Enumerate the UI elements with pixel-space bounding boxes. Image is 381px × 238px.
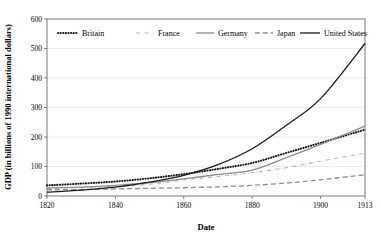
x-tick-label: 1900 bbox=[313, 201, 328, 210]
legend-label-britain: Britain bbox=[82, 29, 104, 38]
series-line-germany bbox=[47, 126, 365, 188]
series-lines bbox=[47, 43, 365, 192]
y-axis-title: GDP (in billions of 1990 international d… bbox=[3, 24, 13, 190]
x-tick-label: 1860 bbox=[176, 201, 191, 210]
series-line-britain bbox=[47, 130, 365, 186]
chart-legend: BritainFranceGermanyJapanUnited States bbox=[58, 29, 367, 38]
x-tickmarks bbox=[47, 196, 365, 199]
gdp-line-chart: 0100200300400500600 18201840186018801900… bbox=[0, 0, 381, 238]
x-tick-label: 1880 bbox=[245, 201, 260, 210]
y-tickmarks bbox=[44, 19, 47, 196]
y-tick-labels: 0100200300400500600 bbox=[31, 15, 43, 201]
gridlines bbox=[47, 49, 365, 167]
x-axis-title: Date bbox=[198, 222, 215, 232]
y-tick-label: 0 bbox=[38, 192, 42, 201]
x-tick-label: 1840 bbox=[108, 201, 123, 210]
y-tick-label: 500 bbox=[31, 44, 43, 53]
x-tick-label: 1820 bbox=[40, 201, 55, 210]
y-tick-label: 600 bbox=[31, 15, 43, 24]
legend-label-france: France bbox=[158, 29, 180, 38]
legend-label-japan: Japan bbox=[277, 29, 295, 38]
legend-label-germany: Germany bbox=[218, 29, 248, 38]
y-tick-label: 300 bbox=[31, 103, 43, 112]
x-tick-labels: 182018401860188019001913 bbox=[40, 201, 373, 210]
y-tick-label: 200 bbox=[31, 133, 43, 142]
series-line-united-states bbox=[47, 43, 365, 192]
x-tick-label: 1913 bbox=[358, 201, 373, 210]
legend-label-united-states: United States bbox=[324, 29, 367, 38]
chart-canvas: 0100200300400500600 18201840186018801900… bbox=[0, 0, 381, 238]
y-tick-label: 100 bbox=[31, 162, 43, 171]
y-tick-label: 400 bbox=[31, 74, 43, 83]
